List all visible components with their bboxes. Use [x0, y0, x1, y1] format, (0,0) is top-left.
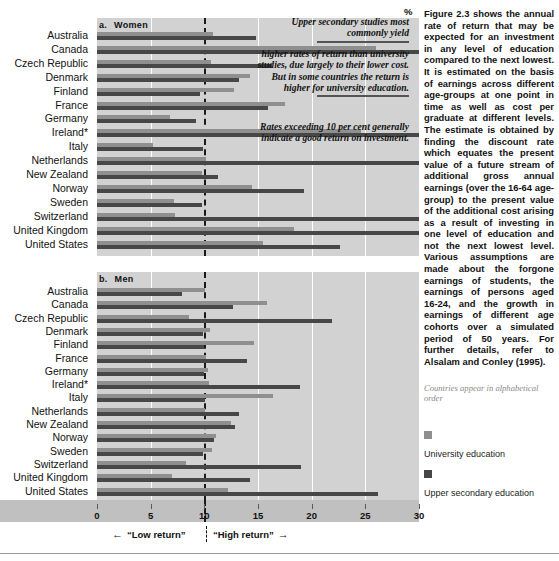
bar-upper-secondary: [97, 175, 218, 179]
bar-group: [97, 448, 419, 456]
callout-rule-2: [317, 95, 409, 97]
bar-group: [97, 227, 419, 235]
callout-3: Rates exceeding 10 per cent generally in…: [249, 121, 409, 144]
bar-group: [97, 157, 419, 165]
bar-upper-secondary: [97, 398, 205, 402]
bar-upper-secondary: [97, 492, 378, 496]
country-label: United Kingdom: [13, 225, 88, 236]
callout-3-text: Rates exceeding 10 per cent generally in…: [260, 121, 409, 143]
bar-upper-secondary: [97, 465, 301, 469]
bar-upper-secondary: [97, 147, 203, 151]
bar-group: [97, 199, 419, 207]
country-label: France: [55, 353, 88, 364]
country-label: Germany: [45, 113, 88, 124]
country-label: Australia: [47, 30, 88, 41]
arrow-right-icon: →: [278, 528, 289, 540]
country-label: Italy: [69, 392, 88, 403]
country-label: Sweden: [50, 197, 88, 208]
alphabetical-order-note: Countries appear in alphabetical order: [424, 383, 544, 403]
bar-group: [97, 381, 419, 389]
bar-group: [97, 143, 419, 151]
figure-description-text: Figure 2.3 shows the annual rate of retu…: [424, 8, 554, 367]
country-label: Denmark: [45, 72, 88, 83]
callout-1-text: Upper secondary studies most commonly yi…: [291, 16, 409, 38]
country-label: Canada: [51, 299, 88, 310]
bar-upper-secondary: [97, 231, 419, 235]
bar-group: [97, 171, 419, 179]
low-return-text: “Low return”: [127, 529, 186, 540]
bar-upper-secondary: [97, 385, 300, 389]
axis-tick: [97, 504, 98, 509]
legend-swatch-upper-secondary-icon: [424, 470, 432, 478]
panel-title-women: a.Women: [99, 20, 148, 30]
country-label: Ireland*: [52, 127, 88, 138]
legend-label-university: University education: [424, 449, 505, 459]
bar-group: [97, 341, 419, 349]
callout-2-text: higher rates of return than university s…: [258, 48, 409, 93]
legend-swatch-university-icon: [424, 431, 432, 439]
legend-label-upper-secondary: Upper secondary education: [424, 488, 534, 498]
bar-group: [97, 368, 419, 376]
bar-group: [97, 213, 419, 221]
bar-group: [97, 394, 419, 402]
bar-group: [97, 102, 419, 110]
country-label: Netherlands: [31, 155, 88, 166]
panel-title-men: b.Men: [99, 274, 134, 284]
axis-tick-label: 30: [414, 510, 425, 521]
axis-tick: [151, 504, 152, 509]
bar-upper-secondary: [97, 345, 204, 349]
legend: University education Upper secondary edu…: [424, 431, 555, 500]
axis-tick-label: 20: [306, 510, 317, 521]
bar-group: [97, 408, 419, 416]
sidebar: Figure 2.3 shows the annual rate of retu…: [424, 8, 555, 553]
country-label: Switzerland: [34, 211, 88, 222]
bar-group: [97, 421, 419, 429]
country-label: Finland: [54, 86, 88, 97]
chart-area: 051015202530 a.Women b.Men AustraliaCana…: [0, 0, 419, 545]
country-label: Switzerland: [34, 459, 88, 470]
return-divider: [206, 526, 207, 542]
bar-group: [97, 288, 419, 296]
country-label: United States: [25, 486, 88, 497]
bar-upper-secondary: [97, 36, 256, 40]
bar-group: [97, 301, 419, 309]
bar-group: [97, 461, 419, 469]
axis-tick-label: 10: [199, 510, 210, 521]
axis-tick-label: 0: [94, 510, 99, 521]
legend-item-university: University education: [424, 431, 555, 461]
country-label: Norway: [52, 432, 88, 443]
panel-label-men: Men: [115, 274, 134, 284]
axis-tick-label: 15: [253, 510, 264, 521]
axis-tick: [365, 504, 366, 509]
bar-upper-secondary: [97, 161, 419, 165]
axis-tick-label: 5: [148, 510, 153, 521]
bar-upper-secondary: [97, 217, 419, 221]
bar-upper-secondary: [97, 425, 235, 429]
bar-group: [97, 488, 419, 496]
bar-upper-secondary: [97, 412, 239, 416]
bar-upper-secondary: [97, 119, 196, 123]
country-label: Italy: [69, 141, 88, 152]
bar-upper-secondary: [97, 78, 239, 82]
bar-upper-secondary: [97, 92, 200, 96]
figure-2-3: 051015202530 a.Women b.Men AustraliaCana…: [0, 0, 559, 561]
country-label: Sweden: [50, 446, 88, 457]
bar-group: [97, 315, 419, 323]
bar-upper-secondary: [97, 189, 304, 193]
bar-upper-secondary: [97, 319, 332, 323]
high-return-label: “High return”→: [213, 528, 289, 540]
country-label: Australia: [47, 286, 88, 297]
bar-upper-secondary: [97, 106, 268, 110]
bar-upper-secondary: [97, 64, 272, 68]
bar-group: [97, 328, 419, 336]
bar-group: [97, 474, 419, 482]
axis-tick: [204, 504, 205, 509]
bar-group: [97, 185, 419, 193]
country-label: New Zealand: [26, 169, 88, 180]
bar-upper-secondary: [97, 332, 203, 336]
country-label: Norway: [52, 183, 88, 194]
panel-letter-women: a.: [99, 20, 107, 30]
panel-letter-men: b.: [99, 274, 108, 284]
high-return-text: “High return”: [213, 529, 274, 540]
bar-upper-secondary: [97, 245, 340, 249]
